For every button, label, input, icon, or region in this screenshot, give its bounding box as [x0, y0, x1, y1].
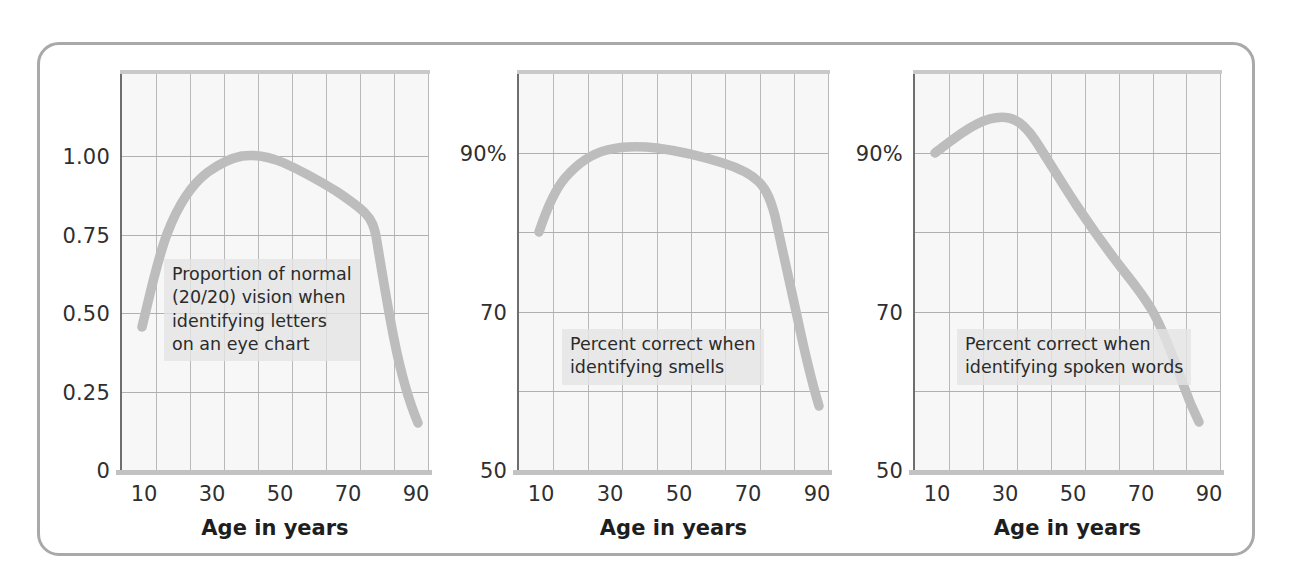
x-tick-label: 70: [728, 482, 768, 506]
x-axis-title: Age in years: [517, 516, 830, 540]
plot-area-smell: Percent correct when identifying smells: [517, 74, 828, 470]
x-tick-label: 10: [124, 482, 164, 506]
plot-bottom-rule: [909, 470, 1224, 475]
y-tick-label: 70: [813, 301, 903, 325]
panel-smell: Percent correct when identifying smells …: [397, 0, 837, 514]
plot-top-rule: [913, 70, 1222, 74]
curve-smell: [519, 74, 830, 470]
y-tick-label: 90%: [813, 142, 903, 166]
y-tick-label: 0.25: [30, 381, 110, 405]
x-axis-title: Age in years: [913, 516, 1222, 540]
y-tick-label: 90%: [417, 142, 507, 166]
x-tick-label: 70: [1121, 482, 1161, 506]
annotation-smell: Percent correct when identifying smells: [562, 329, 764, 385]
plot-bottom-rule: [116, 470, 432, 475]
plot-area-hearing: Percent correct when identifying spoken …: [913, 74, 1220, 470]
plot-area-vision: Proportion of normal (20/20) vision when…: [120, 74, 428, 470]
y-tick-label: 0: [30, 459, 110, 483]
y-tick-label: 1.00: [30, 145, 110, 169]
y-tick-label: 50: [813, 459, 903, 483]
figure-stage: Proportion of normal (20/20) vision when…: [0, 0, 1303, 588]
y-tick-label: 50: [417, 459, 507, 483]
x-tick-label: 50: [1053, 482, 1093, 506]
x-tick-label: 30: [590, 482, 630, 506]
x-tick-label: 50: [260, 482, 300, 506]
plot-bottom-rule: [513, 470, 832, 475]
annotation-hearing: Percent correct when identifying spoken …: [957, 329, 1191, 385]
panel-hearing: Percent correct when identifying spoken …: [793, 0, 1243, 514]
annotation-vision: Proportion of normal (20/20) vision when…: [164, 259, 360, 361]
x-tick-label: 90: [1189, 482, 1229, 506]
y-tick-label: 70: [417, 301, 507, 325]
x-tick-label: 10: [521, 482, 561, 506]
x-axis-title: Age in years: [120, 516, 430, 540]
x-tick-label: 10: [917, 482, 957, 506]
y-tick-label: 0.75: [30, 224, 110, 248]
curve-hearing: [915, 74, 1222, 470]
x-tick-label: 70: [328, 482, 368, 506]
x-tick-label: 50: [659, 482, 699, 506]
plot-top-rule: [120, 70, 430, 74]
x-tick-label: 30: [985, 482, 1025, 506]
x-tick-label: 30: [192, 482, 232, 506]
plot-top-rule: [517, 70, 830, 74]
y-tick-label: 0.50: [30, 302, 110, 326]
